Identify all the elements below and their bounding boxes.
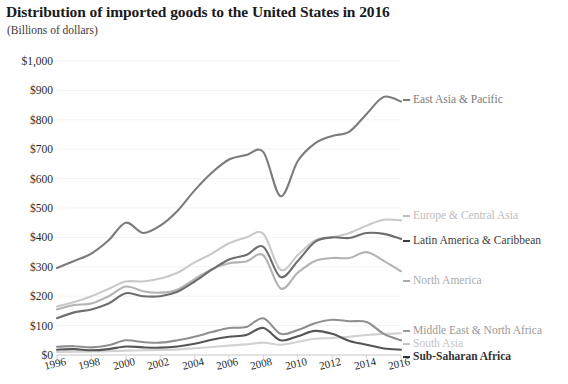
series-label: South Asia [413,338,463,350]
series-label: Middle East & North Africa [413,325,542,337]
x-axis-tick-label: 2002 [146,355,170,372]
x-axis-tick-label: 2008 [249,355,273,372]
x-axis-tick-label: 2016 [387,355,411,372]
x-axis-tick-label: 1996 [43,355,67,372]
x-axis-tick-label: 2010 [284,355,308,372]
x-axis-tick-label: 2004 [181,355,205,372]
series-label: Sub-Saharan Africa [413,351,511,363]
series-label: Latin America & Caribbean [413,235,541,247]
x-axis-tick-label: 2012 [318,355,342,372]
x-axis-tick-label: 1998 [77,355,101,372]
series-label: East Asia & Pacific [413,94,503,106]
series-label: Europe & Central Asia [413,210,518,222]
series-label: North America [413,275,482,287]
x-axis-tick-label: 2006 [215,355,239,372]
chart-page: Distribution of imported goods to the Un… [0,0,568,384]
x-axis-tick-label: 2014 [353,355,377,372]
x-axis-tick-label: 2000 [112,355,136,372]
